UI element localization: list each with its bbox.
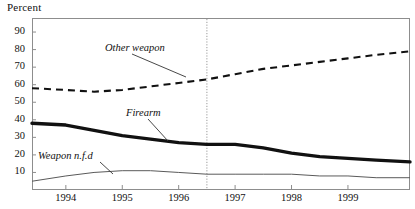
y-axis-tick-marks — [32, 32, 36, 172]
annotation-weapon-nfd: Weapon n.f.d — [38, 150, 93, 161]
annotation-other-weapon: Other weapon — [105, 42, 165, 53]
leader-line-other-weapon — [132, 54, 186, 77]
series-line-weapon-nfd — [32, 171, 410, 182]
series-line-other-weapon — [32, 51, 410, 91]
chart-series-layer — [0, 0, 415, 209]
percent-by-weapon-type-chart: Percent 102030405060708090 1994199519961… — [0, 0, 415, 209]
annotation-firearm: Firearm — [126, 107, 161, 118]
